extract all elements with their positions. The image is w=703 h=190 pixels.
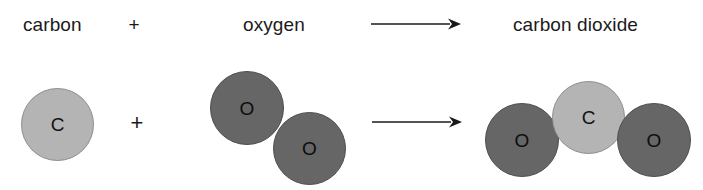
atom-symbol-oxygen-right: O	[647, 131, 662, 150]
reaction-diagram: carbon + oxygen carbon dioxide C + O O O…	[0, 0, 703, 190]
word-label-carbon: carbon	[23, 15, 82, 34]
model-plus-sign: +	[128, 112, 146, 134]
atom-symbol-oxygen-left: O	[515, 131, 530, 150]
word-reaction-arrow-icon	[368, 12, 464, 36]
word-label-carbon-dioxide: carbon dioxide	[513, 15, 638, 34]
atom-oxygen-2: O	[273, 112, 346, 185]
atom-symbol-oxygen-2: O	[302, 139, 317, 158]
atom-carbon-center: C	[552, 81, 625, 154]
atom-oxygen-1: O	[210, 71, 284, 145]
atom-symbol-carbon-center: C	[582, 108, 596, 127]
word-plus-sign: +	[126, 15, 142, 34]
atom-symbol-oxygen-1: O	[240, 99, 255, 118]
atom-oxygen-left: O	[485, 103, 559, 177]
model-reaction-arrow-icon	[369, 110, 465, 134]
atom-carbon: C	[21, 88, 94, 161]
atom-oxygen-right: O	[617, 103, 691, 177]
atom-symbol-carbon: C	[51, 115, 65, 134]
word-label-oxygen: oxygen	[243, 15, 305, 34]
